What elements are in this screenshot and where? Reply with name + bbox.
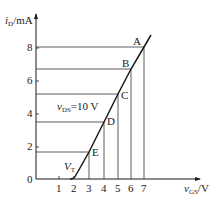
x-tick-5: 5 bbox=[115, 183, 121, 194]
vds-annotation: vDS=10 V bbox=[57, 101, 99, 114]
vt-subscript: T bbox=[71, 166, 75, 174]
x-tick-3: 3 bbox=[86, 183, 92, 194]
x-axis-label: vGS/V bbox=[184, 183, 209, 196]
vt-symbol: V bbox=[64, 160, 71, 172]
x-axis-unit: /V bbox=[198, 182, 209, 194]
point-label-d: D bbox=[107, 116, 115, 127]
point-label-c: C bbox=[121, 90, 128, 101]
vds-subscript: DS bbox=[62, 106, 71, 114]
point-label-e: E bbox=[92, 147, 99, 158]
x-tick-6: 6 bbox=[128, 183, 134, 194]
transfer-characteristic-chart bbox=[0, 0, 222, 204]
point-label-b: B bbox=[122, 58, 129, 69]
x-tick-4: 4 bbox=[101, 183, 107, 194]
y-tick-8: 8 bbox=[27, 42, 33, 53]
x-tick-1: 1 bbox=[56, 183, 62, 194]
x-tick-7: 7 bbox=[141, 183, 147, 194]
x-axis-subscript: GS bbox=[189, 188, 198, 196]
origin-label: 0 bbox=[27, 174, 33, 185]
y-tick-2: 2 bbox=[27, 141, 33, 152]
x-tick-2: 2 bbox=[71, 183, 77, 194]
point-label-a: A bbox=[133, 36, 141, 47]
y-tick-6: 6 bbox=[27, 75, 33, 86]
vt-annotation: VT bbox=[64, 161, 75, 174]
y-axis-unit: /mA bbox=[13, 14, 33, 26]
vds-value: =10 V bbox=[71, 100, 99, 112]
y-tick-4: 4 bbox=[27, 108, 33, 119]
y-axis-label: iD/mA bbox=[5, 15, 33, 28]
